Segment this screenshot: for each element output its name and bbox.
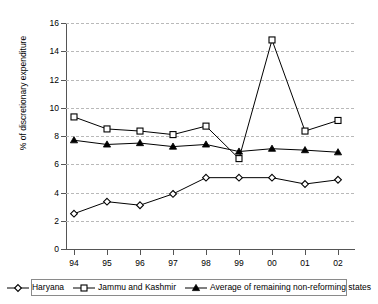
x-axis-tick-label: 96 [135,259,144,268]
y-axis-tick-label: 10 [50,104,59,112]
x-axis-tick [305,250,306,255]
plot-area: 0246810121416 [66,23,354,249]
x-axis-tick [206,250,207,255]
series-line [74,178,338,214]
x-axis-tick [173,250,174,255]
series-3 [70,137,341,155]
x-axis-tick-label: 01 [300,259,309,268]
legend-marker-filled-triangle-icon [185,283,207,293]
data-point-marker [70,137,77,143]
legend-item-3[interactable]: Average of remaining non-reforming state… [185,283,371,293]
x-axis-tick-label: 98 [201,259,210,268]
y-axis-tick-label: 0 [54,245,59,253]
legend-marker-open-square-icon [73,283,95,293]
x-axis-tick [74,250,75,255]
data-point-marker [137,202,144,209]
data-point-marker [203,123,209,129]
x-axis-tick-label: 97 [168,259,177,268]
y-axis-tick-label: 4 [54,189,59,197]
data-point-marker [15,284,22,291]
data-point-marker [335,117,341,123]
legend-item-1[interactable]: Haryana [7,283,64,293]
y-axis-tick-label: 2 [54,217,59,225]
data-point-marker [137,128,143,134]
y-axis-tick-label: 14 [50,47,59,55]
legend-label: Haryana [32,283,64,292]
data-point-marker [302,128,308,134]
data-point-marker [104,126,110,132]
data-point-marker [81,285,87,291]
x-axis-tick-label: 95 [102,259,111,268]
x-axis-tick-label: 02 [333,259,342,268]
data-point-marker [335,176,342,183]
x-axis-tick-label: 99 [234,259,243,268]
y-axis-tick-label: 6 [54,160,59,168]
chart-legend: HaryanaJammu and KashmirAverage of remai… [31,279,347,296]
data-point-marker [269,174,276,181]
data-point-marker [104,198,111,205]
data-point-marker [268,145,275,151]
data-point-marker [71,114,77,120]
x-axis-tick [107,250,108,255]
y-axis-title: % of discretionary expenditure [18,8,28,178]
data-point-marker [302,181,309,188]
data-point-marker [170,132,176,138]
y-axis-tick-label: 12 [50,76,59,84]
data-point-marker [71,210,78,217]
legend-label: Jammu and Kashmir [98,283,176,292]
y-axis-tick-label: 16 [50,19,59,27]
data-point-marker [170,191,177,198]
x-axis-tick [239,250,240,255]
series-layer [66,23,354,249]
data-point-marker [269,37,275,43]
x-axis-tick [140,250,141,255]
series-1 [71,174,342,217]
line-chart: % of discretionary expenditure 024681012… [0,0,378,304]
legend-label: Average of remaining non-reforming state… [210,283,371,292]
y-axis-tick-label: 8 [54,132,59,140]
x-axis-tick-label: 94 [69,259,78,268]
x-axis-ticks: 949596979899000102 [66,250,355,272]
data-point-marker [202,141,209,147]
x-axis-tick [272,250,273,255]
data-point-marker [236,174,243,181]
data-point-marker [203,174,210,181]
legend-item-2[interactable]: Jammu and Kashmir [73,283,176,293]
data-point-marker [236,156,242,162]
x-axis-tick-label: 00 [267,259,276,268]
legend-marker-open-diamond-icon [7,283,29,293]
x-axis-tick [338,250,339,255]
data-point-marker [136,139,143,145]
